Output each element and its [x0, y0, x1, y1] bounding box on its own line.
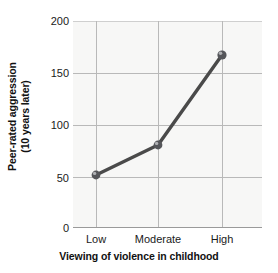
y-tick-label-150: 150 — [39, 68, 69, 79]
vertical-gridlines — [97, 21, 223, 228]
plot-svg — [73, 21, 262, 228]
horizontal-gridlines — [73, 22, 262, 178]
y-tick-label-200: 200 — [39, 16, 69, 27]
data-point-moderate-highlight — [155, 142, 158, 145]
y-tick-label-50: 50 — [39, 173, 69, 184]
data-point-high — [217, 50, 226, 59]
chart-figure: Peer-rated aggression (10 years later) 2… — [0, 0, 278, 273]
data-point-low — [92, 171, 101, 180]
y-axis-title-line-2: (10 years later) — [18, 62, 31, 171]
x-tick-label-moderate: Moderate — [135, 233, 181, 246]
y-axis-title: Peer-rated aggression (10 years later) — [0, 0, 36, 232]
data-point-low-highlight — [93, 172, 96, 175]
plot-area — [73, 21, 262, 228]
x-tick-label-high: High — [211, 233, 234, 246]
x-axis-tick-labels: Low Moderate High — [0, 233, 278, 249]
x-tick-label-low: Low — [86, 233, 106, 246]
y-axis-title-text: Peer-rated aggression (10 years later) — [6, 62, 31, 171]
x-axis-title: Viewing of violence in childhood — [0, 250, 278, 262]
y-axis-title-line-1: Peer-rated aggression — [6, 62, 19, 171]
data-point-moderate — [154, 141, 163, 150]
data-point-high-highlight — [219, 52, 223, 56]
y-tick-label-100: 100 — [39, 120, 69, 131]
data-point-markers — [92, 50, 227, 179]
